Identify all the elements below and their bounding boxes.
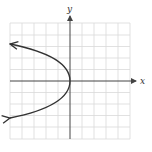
x-axis-label: x — [140, 76, 145, 86]
y-axis-label: y — [66, 4, 73, 14]
coordinate-plane: x y — [0, 0, 152, 152]
